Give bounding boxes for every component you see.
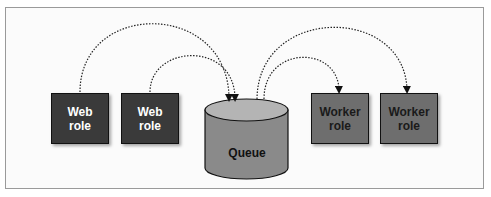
queue-label: Queue: [205, 146, 289, 160]
web-role-label-line2: role: [139, 119, 161, 133]
worker-role-box-1: Worker role: [311, 93, 369, 144]
queue-cylinder: [205, 99, 288, 179]
web-role-box-2: Web role: [121, 93, 179, 144]
worker-role-box-2: Worker role: [380, 93, 438, 144]
edge-web2-queue: [150, 56, 235, 98]
edge-web1-queue: [80, 24, 229, 98]
web-role-box-1: Web role: [51, 93, 109, 144]
edge-queue-worker2: [257, 27, 407, 99]
worker-role-label-line2: role: [398, 119, 420, 133]
worker-role-label-line2: role: [329, 119, 351, 133]
worker-role-label-line1: Worker: [388, 105, 429, 119]
worker-role-label-line1: Worker: [319, 105, 360, 119]
web-role-label-line1: Web: [67, 105, 92, 119]
web-role-label-line1: Web: [137, 105, 162, 119]
web-role-label-line2: role: [69, 119, 91, 133]
